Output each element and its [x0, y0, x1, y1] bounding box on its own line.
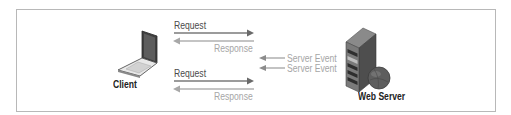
globe-icon: [368, 67, 390, 89]
web-server-label: Web Server: [358, 91, 405, 102]
request-label-1: Request: [174, 20, 206, 31]
response-label-1: Response: [214, 43, 253, 54]
laptop-icon: [118, 31, 157, 78]
client-label: Client: [113, 79, 137, 90]
server-event-arrow-2: [259, 65, 285, 71]
server-event-label-2: Server Event: [287, 63, 337, 74]
server-event-arrow-1: [259, 55, 285, 61]
request-label-2: Request: [174, 68, 206, 79]
diagram-graphics: [0, 0, 511, 115]
response-label-2: Response: [214, 91, 253, 102]
